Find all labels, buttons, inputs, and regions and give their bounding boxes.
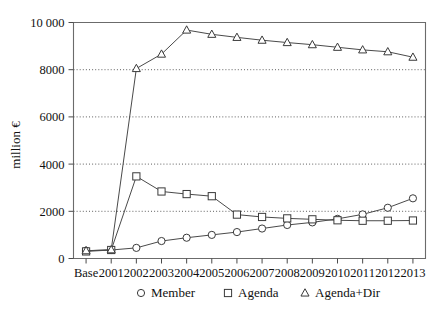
- marker-triangle: [183, 26, 191, 33]
- x-axis-ticks: [86, 259, 413, 264]
- y-tick-label: 10 000: [30, 16, 64, 30]
- legend-label: Member: [151, 285, 196, 300]
- marker-square: [284, 215, 291, 222]
- marker-square: [208, 193, 215, 200]
- x-tick-label: 2013: [400, 266, 425, 280]
- marker-square: [224, 289, 231, 296]
- line-chart: 0200040006000800010 000 Base200120022003…: [0, 0, 445, 315]
- legend-item-member[interactable]: Member: [137, 285, 195, 300]
- marker-circle: [233, 228, 240, 235]
- legend-item-agenda-dir[interactable]: Agenda+Dir: [301, 285, 381, 300]
- x-tick-label: 2004: [174, 266, 200, 280]
- x-tick-label: 2007: [250, 266, 275, 280]
- x-axis-tick-labels: Base200120022003200420052006200720082009…: [74, 266, 426, 280]
- marker-square: [359, 217, 366, 224]
- legend-label: Agenda: [238, 285, 279, 300]
- marker-circle: [158, 237, 165, 244]
- y-axis-title: million €: [8, 121, 23, 169]
- marker-square: [233, 211, 240, 218]
- marker-circle: [258, 225, 265, 232]
- legend-item-agenda[interactable]: Agenda: [224, 285, 278, 300]
- y-tick-label: 6000: [40, 110, 65, 124]
- y-axis-ticks: [69, 23, 74, 259]
- marker-square: [258, 213, 265, 220]
- y-tick-label: 8000: [40, 63, 65, 77]
- y-tick-label: 0: [58, 252, 64, 266]
- x-tick-label: 2008: [275, 266, 300, 280]
- marker-circle: [133, 244, 140, 251]
- x-tick-label: Base: [74, 266, 99, 280]
- marker-square: [334, 217, 341, 224]
- marker-square: [158, 188, 165, 195]
- chart-canvas: 0200040006000800010 000 Base200120022003…: [0, 0, 445, 315]
- x-tick-label: 2012: [375, 266, 400, 280]
- marker-square: [133, 173, 140, 180]
- x-tick-label: 2006: [224, 266, 249, 280]
- marker-square: [384, 217, 391, 224]
- marker-circle: [409, 195, 416, 202]
- marker-circle: [208, 231, 215, 238]
- marker-circle: [137, 289, 144, 296]
- marker-square: [409, 217, 416, 224]
- marker-triangle: [301, 289, 309, 296]
- x-tick-label: 2009: [300, 266, 325, 280]
- x-tick-label: 2011: [350, 266, 375, 280]
- chart-legend: MemberAgendaAgenda+Dir: [137, 285, 380, 300]
- x-tick-label: 2003: [149, 266, 174, 280]
- data-series: [82, 26, 417, 255]
- marker-circle: [183, 234, 190, 241]
- marker-triangle: [132, 64, 140, 71]
- y-axis-tick-labels: 0200040006000800010 000: [30, 16, 64, 266]
- y-tick-label: 4000: [40, 158, 65, 172]
- x-tick-label: 2005: [199, 266, 224, 280]
- x-tick-label: 2002: [124, 266, 149, 280]
- marker-circle: [384, 204, 391, 211]
- legend-label: Agenda+Dir: [315, 285, 381, 300]
- x-tick-label: 2010: [325, 266, 350, 280]
- marker-square: [309, 216, 316, 223]
- y-tick-label: 2000: [40, 205, 65, 219]
- marker-square: [183, 190, 190, 197]
- x-tick-label: 2001: [99, 266, 124, 280]
